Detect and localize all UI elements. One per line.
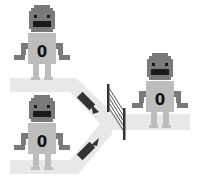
diagram-canvas: 0 0 0	[0, 0, 202, 178]
robot-top-left: 0	[14, 5, 70, 80]
robot-bottom-left: 0	[14, 95, 70, 170]
path-exit	[100, 114, 190, 130]
diagram-scene: 0 0 0	[0, 0, 202, 178]
robot-label: 0	[37, 43, 47, 61]
path-top	[10, 78, 112, 124]
robot-label: 0	[155, 91, 165, 109]
robot-label: 0	[37, 133, 47, 151]
